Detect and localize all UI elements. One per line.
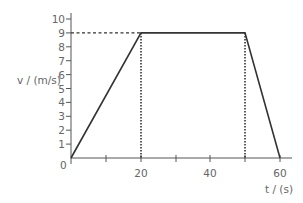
velocity-curve [71,33,280,158]
x-label-60: 60 [273,167,286,179]
x-tick-labels: 20 40 60 [134,167,286,179]
y-label-10: 10 [52,13,65,25]
velocity-time-chart: 1 2 3 4 5 6 7 8 9 10 0 20 40 60 v / (m/s… [0,0,303,203]
x-label-40: 40 [203,167,216,179]
y-label-2: 2 [58,124,65,136]
y-axis-title: v / (m/s) [17,74,61,86]
y-label-3: 3 [58,110,65,122]
y-label-8: 8 [58,41,65,53]
y-ticks [66,19,71,144]
x-ticks [71,155,280,164]
y-label-9: 9 [58,27,65,39]
y-label-1: 1 [58,138,65,150]
y-label-7: 7 [58,55,65,67]
origin-label: 0 [60,159,67,171]
x-axis-title: t / (s) [265,183,293,195]
x-label-20: 20 [134,167,147,179]
y-label-4: 4 [58,96,65,108]
